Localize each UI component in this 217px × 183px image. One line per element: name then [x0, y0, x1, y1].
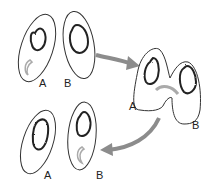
stage3-cell-a — [14, 106, 63, 178]
stage3-label-a: A — [44, 169, 52, 181]
plasmid-icon — [78, 147, 85, 163]
nucleus-icon — [77, 112, 91, 136]
stage1-label-a: A — [39, 77, 47, 89]
plasmid-bridge-icon — [156, 87, 178, 94]
stage1-label-b: B — [64, 77, 71, 89]
stage2-label-a: A — [129, 100, 137, 112]
nucleus-icon — [70, 25, 88, 53]
arrow-right-icon — [96, 55, 140, 70]
nucleus-icon — [31, 29, 46, 51]
stage1-cell-b — [58, 9, 99, 81]
nucleus-icon — [180, 66, 196, 93]
stage2-conjugating-cells — [134, 48, 201, 124]
arrow-left-icon — [100, 118, 159, 156]
plasmid-icon — [25, 60, 32, 75]
nucleus-icon — [33, 119, 48, 149]
stage3-label-b: B — [96, 169, 103, 181]
stage3-cell-b — [65, 101, 99, 171]
stage2-label-b: B — [192, 119, 199, 131]
nucleus-icon — [145, 58, 159, 84]
stage1-cell-a — [11, 10, 63, 86]
conjugation-diagram: A B A B A B — [0, 0, 217, 183]
